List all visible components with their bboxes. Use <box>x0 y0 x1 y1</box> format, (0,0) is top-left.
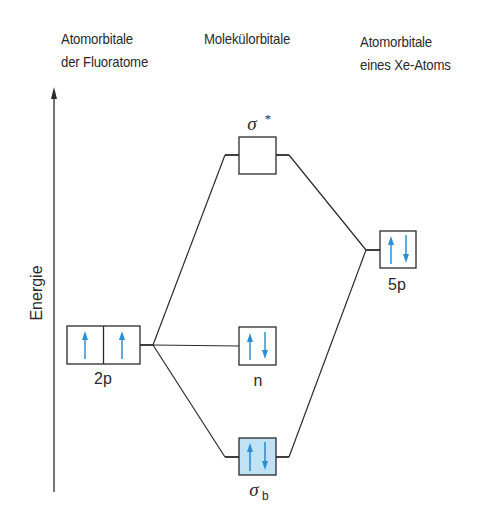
label-n: n <box>254 372 263 389</box>
mo-diagram: Energie 2p σ * <box>0 0 504 527</box>
fluorine-2p-orbital: 2p <box>67 326 140 387</box>
label-sigma-b: σ <box>249 479 259 500</box>
correlation-lines <box>140 155 380 457</box>
nonbonding-orbital: n <box>239 327 276 389</box>
label-2p: 2p <box>94 370 112 387</box>
label-5p: 5p <box>388 276 406 293</box>
label-sigma-star: σ <box>247 113 257 134</box>
axis-label: Energie <box>28 265 45 320</box>
label-sigma-b-subscript: b <box>262 489 269 503</box>
xenon-5p-orbital: 5p <box>380 231 416 293</box>
label-sigma-star-superscript: * <box>264 111 271 126</box>
sigma-star-orbital: σ * <box>239 111 276 174</box>
energy-axis: Energie <box>28 87 57 492</box>
sigma-bonding-orbital: σ b <box>239 438 276 503</box>
axis-arrow-icon <box>51 87 57 99</box>
